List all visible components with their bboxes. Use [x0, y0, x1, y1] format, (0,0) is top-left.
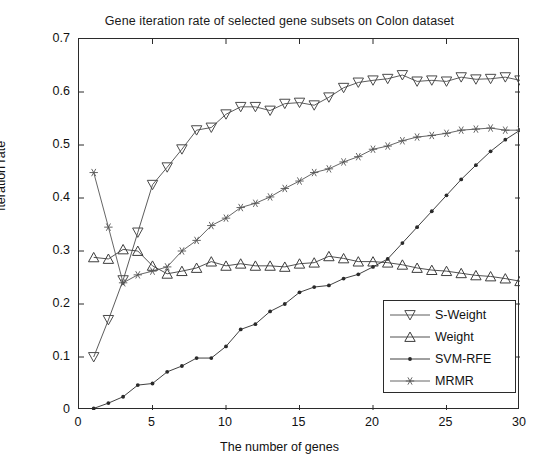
- x-tick-label: 10: [205, 415, 245, 429]
- series-weight: [89, 244, 521, 285]
- legend-item-svm-rfe[interactable]: SVM-RFE: [384, 348, 515, 370]
- x-tick-label: 15: [279, 415, 319, 429]
- x-tick-label: 25: [426, 415, 466, 429]
- chart-figure: Gene iteration rate of selected gene sub…: [0, 0, 559, 468]
- chart-legend: S-WeightWeightSVM-RFEMRMR: [383, 300, 516, 393]
- legend-label: Weight: [432, 330, 474, 344]
- legend-marker-dot-icon: [388, 350, 432, 368]
- x-tick-label: 30: [499, 415, 539, 429]
- legend-marker-triangle-down-icon: [388, 306, 432, 324]
- y-tick-label: 0: [36, 402, 70, 416]
- legend-label: S-Weight: [432, 308, 486, 322]
- x-tick-label: 20: [352, 415, 392, 429]
- legend-marker-triangle-up-icon: [388, 328, 432, 346]
- y-tick-label: 0.1: [36, 349, 70, 363]
- legend-marker-asterisk-icon: [388, 372, 432, 390]
- y-tick-label: 0.4: [36, 190, 70, 204]
- x-tick-label: 0: [58, 415, 98, 429]
- y-tick-label: 0.7: [36, 31, 70, 45]
- y-tick-label: 0.6: [36, 84, 70, 98]
- y-tick-label: 0.2: [36, 296, 70, 310]
- legend-item-s-weight[interactable]: S-Weight: [384, 304, 515, 326]
- y-axis-label: Iteration rate: [0, 141, 8, 211]
- x-axis-label: The number of genes: [0, 440, 559, 454]
- chart-title: Gene iteration rate of selected gene sub…: [0, 14, 559, 28]
- legend-item-weight[interactable]: Weight: [384, 326, 515, 348]
- legend-label: MRMR: [432, 374, 474, 388]
- series-mrmr: [90, 124, 521, 286]
- legend-label: SVM-RFE: [432, 352, 491, 366]
- y-tick-label: 0.5: [36, 137, 70, 151]
- y-tick-label: 0.3: [36, 243, 70, 257]
- x-tick-label: 5: [132, 415, 172, 429]
- legend-item-mrmr[interactable]: MRMR: [384, 370, 515, 392]
